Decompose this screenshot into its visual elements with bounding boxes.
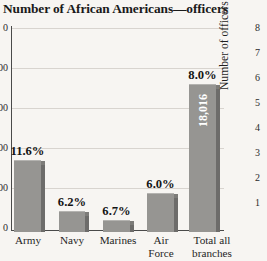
bar-face bbox=[14, 160, 41, 232]
bar-value-label: 8.0% bbox=[188, 68, 216, 83]
y-axis-right-tick-label: 5 bbox=[255, 97, 267, 108]
bar-face bbox=[59, 211, 85, 232]
y-axis-right-tick-label: 4 bbox=[255, 122, 267, 133]
bar-3d-side bbox=[130, 225, 134, 232]
x-axis-label-air-force: Air Force bbox=[141, 234, 181, 259]
y-axis-right-tick-label: 2 bbox=[255, 172, 267, 183]
x-axis-label-line: Total all bbox=[182, 234, 242, 247]
y-axis-tick-label: 00 bbox=[0, 182, 8, 193]
y-axis-tick-label: 0 bbox=[0, 222, 8, 233]
bar-navy[interactable]: 6.2% bbox=[59, 212, 85, 232]
x-axis-label-navy: Navy bbox=[52, 234, 92, 247]
bar-3d-side bbox=[85, 216, 89, 232]
y-axis-right-tick-label: 7 bbox=[255, 47, 267, 58]
x-axis-label-total-all-branches: Total all branches bbox=[182, 234, 242, 259]
plot-area: 0 00 00 00 00 0 11.6% 6.2% 6.7% 6. bbox=[0, 24, 224, 232]
y-axis-right-tick-label: 6 bbox=[255, 72, 267, 83]
bar-total-all-branches[interactable]: 8.0% 18,016 bbox=[189, 85, 216, 232]
bar-value-label: 6.0% bbox=[146, 177, 174, 192]
y-axis-line bbox=[11, 26, 12, 231]
bar-value-label: 6.2% bbox=[58, 195, 86, 210]
y-axis-right-title: Number of officers bbox=[218, 0, 231, 90]
bar-air-force[interactable]: 6.0% bbox=[147, 194, 174, 232]
bar-value-label: 6.7% bbox=[102, 204, 130, 219]
x-axis-label-line: Air bbox=[141, 234, 181, 247]
chart-screenshot: Number of African Americans—officers 0 0… bbox=[0, 0, 267, 261]
y-axis-tick-label: 00 bbox=[0, 142, 8, 153]
page-title: Number of African Americans—officers bbox=[3, 1, 253, 17]
y-axis-tick-label: 00 bbox=[0, 62, 8, 73]
x-axis-label-line: branches bbox=[182, 247, 242, 260]
x-axis-label-line: Army bbox=[8, 234, 48, 247]
bar-inner-count-label: 18,016 bbox=[195, 94, 210, 127]
bar-value-label: 11.6% bbox=[11, 144, 45, 159]
bar-marines[interactable]: 6.7% bbox=[103, 221, 130, 232]
bar-3d-side bbox=[216, 89, 220, 232]
y-axis-tick-label: 0 bbox=[0, 22, 8, 33]
x-axis-label-army: Army bbox=[8, 234, 48, 247]
y-axis-right-tick-label: 1 bbox=[255, 197, 267, 208]
bar-face bbox=[147, 193, 174, 232]
bar-3d-side bbox=[41, 165, 45, 232]
bar-3d-side bbox=[174, 198, 178, 232]
y-axis-tick-label: 00 bbox=[0, 102, 8, 113]
x-axis-label-line: Force bbox=[141, 247, 181, 260]
bar-face bbox=[103, 220, 130, 232]
gridline bbox=[11, 28, 224, 29]
y-axis-right-tick-label: 3 bbox=[255, 147, 267, 158]
y-axis-right-tick-label: 8 bbox=[255, 22, 267, 33]
x-axis-label-marines: Marines bbox=[94, 234, 142, 247]
bar-army[interactable]: 11.6% bbox=[14, 161, 41, 232]
x-axis-label-line: Navy bbox=[52, 234, 92, 247]
x-axis-label-line: Marines bbox=[94, 234, 142, 247]
